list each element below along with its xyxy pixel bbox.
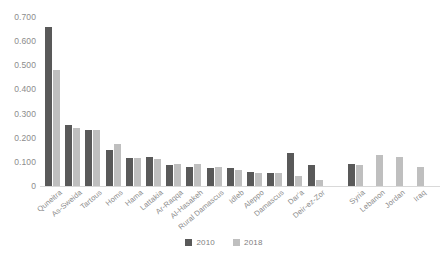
- bar-group: [267, 17, 283, 186]
- bar-2018[interactable]: [73, 128, 80, 186]
- y-axis-tick-label: 0.300: [0, 109, 36, 119]
- y-axis-tick-label: 0.400: [0, 84, 36, 94]
- x-axis-tick-label: Iraq: [411, 188, 427, 203]
- bar-2018[interactable]: [93, 130, 100, 186]
- x-axis-tick-label: Homs: [103, 188, 124, 208]
- x-axis-tick-label: Jordan: [383, 188, 407, 210]
- bar-group: [308, 17, 324, 186]
- bar-group: [247, 17, 263, 186]
- bar-2010[interactable]: [126, 158, 133, 186]
- legend-item[interactable]: 2018: [233, 238, 263, 248]
- x-axis-tick-label: Tartous: [79, 188, 104, 211]
- bar-2018[interactable]: [295, 176, 302, 186]
- legend-label: 2018: [244, 238, 263, 248]
- bar-2018[interactable]: [114, 144, 121, 186]
- y-axis-tick-label: 0.600: [0, 36, 36, 46]
- bar-2010[interactable]: [85, 130, 92, 186]
- bar-2010[interactable]: [267, 173, 274, 186]
- chart-legend: 20102018: [0, 238, 448, 248]
- bar-2010[interactable]: [287, 153, 294, 186]
- bar-group: [65, 17, 81, 186]
- legend-swatch-icon: [185, 239, 192, 246]
- bar-2018[interactable]: [134, 158, 141, 186]
- bar-2018[interactable]: [215, 167, 222, 186]
- bar-2010[interactable]: [348, 164, 355, 186]
- bar-2018[interactable]: [194, 164, 201, 186]
- bar-2010[interactable]: [45, 27, 52, 186]
- bar-2010[interactable]: [207, 168, 214, 186]
- bar-group: [348, 17, 364, 186]
- y-axis-tick-label: 0.100: [0, 157, 36, 167]
- bar-2018[interactable]: [417, 167, 424, 186]
- bar-group: [186, 17, 202, 186]
- bar-group: [227, 17, 243, 186]
- plot-area: [40, 17, 440, 186]
- bar-group: [166, 17, 182, 186]
- bar-2018[interactable]: [235, 170, 242, 186]
- bar-2018[interactable]: [255, 173, 262, 186]
- y-axis-tick-label: 0: [0, 181, 36, 191]
- bar-2018[interactable]: [174, 164, 181, 186]
- bar-chart: 0.7000.6000.5000.4000.3000.2000.1000 Qun…: [0, 0, 448, 262]
- bar-2018[interactable]: [376, 155, 383, 186]
- legend-swatch-icon: [233, 239, 240, 246]
- legend-item[interactable]: 2010: [185, 238, 215, 248]
- bar-group: [368, 17, 384, 186]
- bar-2010[interactable]: [186, 167, 193, 186]
- bar-2018[interactable]: [275, 173, 282, 186]
- bar-2010[interactable]: [247, 172, 254, 186]
- bar-group: [106, 17, 122, 186]
- bar-group: [207, 17, 223, 186]
- bar-2018[interactable]: [316, 180, 323, 186]
- bar-2010[interactable]: [146, 157, 153, 186]
- y-axis-tick-label: 0.700: [0, 12, 36, 22]
- bar-2018[interactable]: [53, 70, 60, 186]
- bar-group: [85, 17, 101, 186]
- bar-group: [126, 17, 142, 186]
- bar-2018[interactable]: [396, 157, 403, 186]
- bar-2010[interactable]: [166, 165, 173, 186]
- bar-group: [409, 17, 425, 186]
- bar-2010[interactable]: [227, 168, 234, 186]
- bar-group: [328, 17, 344, 186]
- bar-group: [146, 17, 162, 186]
- bar-2010[interactable]: [106, 150, 113, 186]
- bar-2018[interactable]: [356, 165, 363, 186]
- bar-2010[interactable]: [65, 125, 72, 186]
- x-axis-line: [40, 186, 440, 187]
- bar-group: [45, 17, 61, 186]
- legend-label: 2010: [196, 238, 215, 248]
- y-axis-tick-label: 0.500: [0, 60, 36, 70]
- bar-group: [287, 17, 303, 186]
- bar-2018[interactable]: [154, 159, 161, 186]
- bar-2010[interactable]: [308, 165, 315, 186]
- y-axis-tick-label: 0.200: [0, 133, 36, 143]
- y-axis: 0.7000.6000.5000.4000.3000.2000.1000: [0, 10, 36, 193]
- bar-group: [388, 17, 404, 186]
